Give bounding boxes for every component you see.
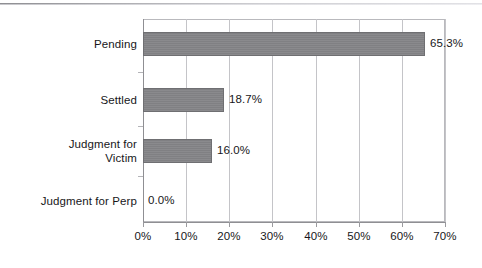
value-label-judgment-for-victim: 16.0% — [217, 144, 250, 156]
category-label-line: Judgment for Perp — [7, 194, 137, 208]
category-label-pending: Pending — [7, 37, 137, 51]
x-axis-line — [143, 222, 446, 223]
bar-judgment-for-victim — [143, 139, 212, 163]
x-axis-tick-70 — [445, 222, 446, 227]
x-tick-label-30: 30% — [252, 230, 292, 242]
x-tick-label-10: 10% — [166, 230, 206, 242]
category-label-judgment-for-perp: Judgment for Perp — [7, 194, 137, 208]
category-label-settled: Settled — [7, 93, 137, 107]
x-tick-label-20: 20% — [209, 230, 249, 242]
x-axis-tick-20 — [229, 222, 230, 227]
x-tick-label-60: 60% — [382, 230, 422, 242]
x-tick-label-40: 40% — [296, 230, 336, 242]
category-label-line: Victim — [7, 151, 137, 165]
bar-pending — [143, 32, 425, 56]
x-axis-tick-50 — [359, 222, 360, 227]
x-tick-label-50: 50% — [339, 230, 379, 242]
y-axis-tick-2 — [138, 176, 143, 177]
x-axis-tick-10 — [186, 222, 187, 227]
value-label-judgment-for-perp: 0.0% — [148, 194, 175, 206]
chart-screenshot: 65.3%18.7%16.0%0.0% PendingSettledJudgme… — [0, 0, 482, 268]
x-axis-tick-60 — [402, 222, 403, 227]
value-label-settled: 18.7% — [229, 93, 262, 105]
x-tick-label-70: 70% — [425, 230, 465, 242]
category-label-line: Settled — [7, 93, 137, 107]
gridline-70 — [445, 19, 446, 222]
category-label-line: Judgment for — [7, 137, 137, 151]
value-label-pending: 65.3% — [430, 37, 463, 49]
x-tick-label-0: 0% — [123, 230, 163, 242]
x-axis-tick-0 — [143, 222, 144, 227]
x-axis-tick-30 — [272, 222, 273, 227]
bar-settled — [143, 88, 224, 112]
y-axis-tick-1 — [138, 126, 143, 127]
category-label-judgment-for-victim: Judgment forVictim — [7, 137, 137, 165]
bar-chart: 65.3%18.7%16.0%0.0% PendingSettledJudgme… — [0, 0, 482, 268]
y-axis-tick-0 — [138, 72, 143, 73]
x-axis-tick-40 — [316, 222, 317, 227]
category-label-line: Pending — [7, 37, 137, 51]
